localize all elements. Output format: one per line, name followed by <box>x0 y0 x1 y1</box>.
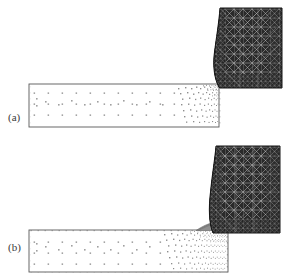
panel-a-scene <box>0 0 288 138</box>
panel-a: (a) <box>0 0 288 138</box>
panel-a-mesh-drawing <box>0 0 288 138</box>
tool-b-mesh <box>204 142 288 240</box>
workpiece-b-coarse-nodes <box>32 232 162 270</box>
panel-b: (b) <box>0 138 288 276</box>
panel-b-mesh-drawing <box>0 138 288 276</box>
workpiece-a <box>28 83 221 128</box>
workpiece-a-coarse-nodes <box>32 86 177 125</box>
cutting-tool-a <box>208 4 288 94</box>
tool-a-mesh <box>208 4 288 94</box>
figure-container: (a) <box>0 0 288 276</box>
cutting-tool-b <box>204 142 288 240</box>
workpiece-b <box>28 223 230 273</box>
panel-b-scene <box>0 138 288 276</box>
